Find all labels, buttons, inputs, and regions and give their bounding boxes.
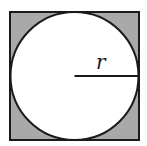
inscribed-circle-diagram: r (0, 0, 147, 146)
radius-label: r (96, 50, 107, 74)
